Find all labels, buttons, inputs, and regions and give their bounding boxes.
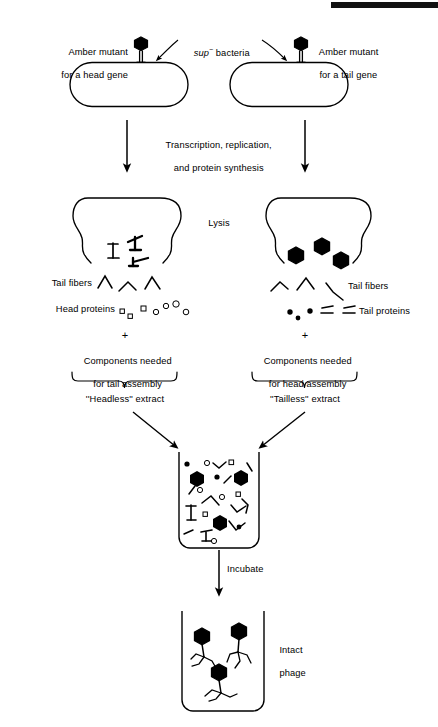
label-incubate: Incubate bbox=[227, 564, 263, 575]
tail-fibers-left bbox=[98, 276, 160, 291]
result-tube bbox=[182, 611, 264, 711]
components-head-line1: Components needed bbox=[264, 356, 352, 366]
head-protein-circle bbox=[219, 494, 224, 499]
tail-protein-dash bbox=[224, 476, 231, 483]
tail-fiber bbox=[231, 505, 246, 512]
label-lysis: Lysis bbox=[208, 218, 229, 229]
tail-protein-dash bbox=[344, 306, 355, 308]
sup-pointer-left bbox=[158, 40, 178, 59]
transcription-line2: and protein synthesis bbox=[174, 163, 264, 173]
head-protein-circle bbox=[211, 538, 216, 543]
tail-fiber bbox=[229, 521, 245, 530]
tail-fiber bbox=[271, 282, 288, 291]
phage-head bbox=[190, 471, 204, 487]
tail-protein-dash bbox=[322, 306, 333, 308]
tail-fiber bbox=[213, 462, 226, 468]
tail-fiber bbox=[202, 496, 219, 505]
plus-right: + bbox=[302, 330, 308, 341]
lysis-stage-left bbox=[73, 198, 189, 318]
mixing-tube-contents bbox=[184, 460, 252, 544]
sup-bacteria-rest: bacteria bbox=[213, 49, 250, 59]
tail-protein-dot bbox=[296, 316, 301, 321]
head-protein-circle bbox=[183, 309, 189, 315]
head-protein-circle bbox=[163, 303, 168, 308]
tail-proteins-right bbox=[287, 306, 355, 320]
tail-structure-1 bbox=[108, 243, 119, 258]
label-components-head-assembly: Components needed for head assembly bbox=[258, 345, 351, 391]
mixing-tube bbox=[179, 452, 259, 548]
intact-phage-1 bbox=[191, 628, 216, 668]
tail-structure-3 bbox=[129, 258, 148, 266]
label-tail-fibers-right: Tail fibers bbox=[348, 281, 388, 292]
phage-head bbox=[315, 238, 330, 255]
phage-particle-left bbox=[135, 37, 148, 62]
lysed-cell-left bbox=[73, 198, 181, 263]
label-amber-mutant-tail: Amber mutant for a tail gene bbox=[314, 36, 378, 82]
arrow-converge-left bbox=[133, 412, 175, 446]
tail-fiber bbox=[297, 278, 314, 290]
components-tail-line2: for tail assembly bbox=[93, 379, 162, 389]
transcription-line1: Transcription, replication, bbox=[165, 140, 271, 150]
components-tail-line1: Components needed bbox=[84, 356, 172, 366]
phage-head bbox=[334, 252, 349, 269]
amber-tail-line2: for a tail gene bbox=[319, 70, 377, 80]
label-tail-proteins: Tail proteins bbox=[359, 306, 410, 317]
head-protein-square bbox=[128, 314, 132, 318]
label-components-tail-assembly: Components needed for tail assembly bbox=[78, 345, 171, 391]
head-protein-square bbox=[236, 492, 240, 496]
tail-fiber bbox=[145, 277, 160, 289]
tail-protein-dash bbox=[184, 530, 193, 534]
intact-phage-3 bbox=[205, 664, 237, 701]
tail-structures-left bbox=[108, 236, 148, 266]
label-intact-phage: Intact phage bbox=[274, 634, 306, 680]
mixing-tube-outline bbox=[179, 452, 259, 548]
head-proteins-left bbox=[120, 301, 189, 319]
tail-protein-dot bbox=[307, 308, 312, 313]
tail-protein-dot bbox=[287, 309, 292, 314]
tail-protein-dot bbox=[184, 461, 189, 466]
label-sup-bacteria: sup− bacteria bbox=[188, 33, 249, 60]
tail-protein-dash bbox=[189, 486, 195, 494]
components-head-line2: for head assembly bbox=[269, 379, 347, 389]
arrow-converge-right bbox=[262, 412, 305, 446]
tail-structure bbox=[201, 530, 212, 541]
sup-pointer-right bbox=[262, 40, 285, 59]
label-tailless-extract: ''Tailless'' extract bbox=[270, 394, 340, 405]
amber-head-line2: for a head gene bbox=[61, 70, 128, 80]
label-transcription: Transcription, replication, and protein … bbox=[160, 129, 271, 175]
lysis-stage-right bbox=[266, 198, 371, 320]
tail-fiber bbox=[98, 276, 112, 288]
head-protein-square bbox=[120, 309, 124, 313]
phage-head bbox=[234, 470, 248, 486]
result-tube-outline bbox=[182, 611, 264, 711]
head-protein-circle bbox=[173, 301, 179, 307]
head-protein-square bbox=[229, 460, 234, 465]
label-head-proteins: Head proteins bbox=[56, 304, 115, 315]
phage-head bbox=[213, 515, 227, 531]
head-protein-circle bbox=[197, 487, 202, 492]
head-protein-circle bbox=[204, 460, 209, 465]
tail-protein-dash bbox=[247, 463, 252, 471]
tail-structure bbox=[186, 505, 196, 520]
tail-fiber bbox=[119, 282, 136, 291]
label-tail-fibers-left: Tail fibers bbox=[52, 278, 92, 289]
head-protein-square bbox=[203, 512, 207, 516]
head-protein-circle bbox=[153, 309, 158, 314]
phage-particle-right bbox=[295, 37, 308, 62]
tail-structure-2 bbox=[128, 236, 142, 250]
phage-head bbox=[289, 247, 304, 264]
intact-line1: Intact bbox=[279, 645, 302, 655]
plus-left: + bbox=[122, 330, 128, 341]
sup-italic: sup bbox=[194, 49, 209, 59]
phage-heads-right bbox=[289, 238, 349, 269]
intact-phage-2 bbox=[227, 623, 251, 668]
label-headless-extract: ''Headless'' extract bbox=[86, 394, 164, 405]
tail-fiber bbox=[326, 283, 343, 300]
head-protein-square bbox=[141, 306, 146, 311]
label-amber-mutant-head: Amber mutant for a head gene bbox=[56, 36, 128, 82]
tail-protein-dot bbox=[214, 474, 219, 479]
amber-head-line1: Amber mutant bbox=[68, 47, 128, 57]
intact-line2: phage bbox=[279, 668, 305, 678]
tail-fibers-right bbox=[271, 278, 343, 300]
amber-tail-line1: Amber mutant bbox=[319, 47, 379, 57]
